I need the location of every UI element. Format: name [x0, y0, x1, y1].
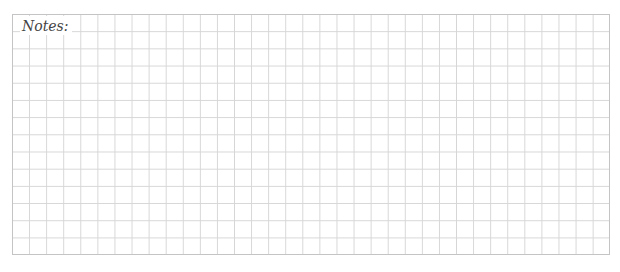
notes-label: Notes:	[20, 16, 72, 35]
notes-grid-area[interactable]	[12, 14, 610, 255]
